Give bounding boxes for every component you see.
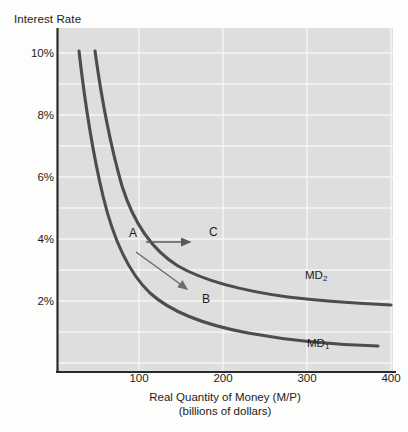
curve-label-md1-text: MD — [307, 337, 325, 349]
curve-label-md2-text: MD — [305, 269, 323, 281]
x-tick-100: 100 — [119, 372, 159, 384]
point-label-c: C — [209, 225, 218, 239]
y-tick-8: 8% — [14, 109, 54, 121]
curve-label-md2-sub: 2 — [323, 274, 327, 283]
x-tick-300: 300 — [287, 372, 327, 384]
x-axis-title-units: (billions of dollars) — [57, 404, 393, 418]
curve-label-md1-sub: 1 — [325, 342, 329, 351]
curve-label-md2: MD2 — [305, 269, 327, 281]
y-axis-ticks: 10% 8% 6% 4% 2% — [10, 0, 54, 432]
y-tick-4: 4% — [14, 233, 54, 245]
paper-texture — [57, 28, 393, 373]
x-tick-400: 400 — [371, 372, 408, 384]
x-tick-200: 200 — [203, 372, 243, 384]
point-label-a: A — [129, 226, 137, 240]
point-label-b: B — [202, 292, 210, 306]
curve-label-md1: MD1 — [307, 337, 329, 349]
y-tick-2: 2% — [14, 295, 54, 307]
y-tick-10: 10% — [14, 47, 54, 59]
y-tick-6: 6% — [14, 171, 54, 183]
x-axis-title-main: Real Quantity of Money (M/P) — [57, 390, 393, 404]
money-demand-chart: Interest Rate 10% 8% 6% 4% 2% 100 200 30… — [0, 0, 408, 432]
x-axis-title: Real Quantity of Money (M/P) (billions o… — [57, 390, 393, 418]
plot-canvas — [0, 0, 408, 432]
